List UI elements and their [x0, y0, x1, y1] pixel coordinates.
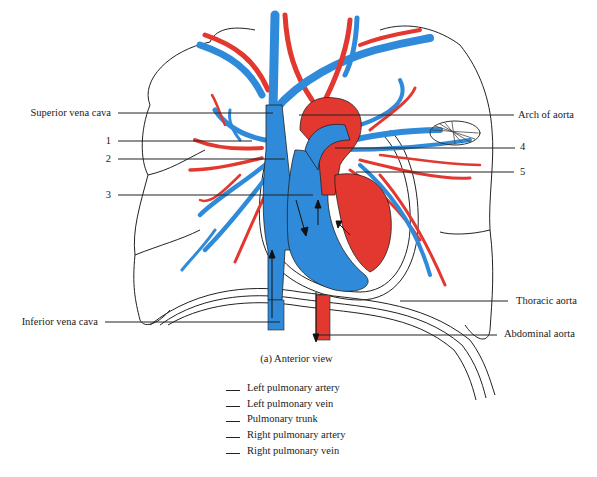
label-2: 2: [106, 153, 111, 165]
label-superior-vena-cava: Superior vena cava: [31, 107, 111, 119]
label-5: 5: [520, 166, 525, 178]
figure-caption: (a) Anterior view: [0, 353, 597, 364]
answer-blank[interactable]: [226, 390, 240, 391]
label-inferior-vena-cava: Inferior vena cava: [22, 316, 98, 328]
answer-blank[interactable]: [226, 437, 240, 438]
answer-key-list: Left pulmonary artery Left pulmonary vei…: [226, 380, 346, 458]
answer-key-text: Right pulmonary artery: [247, 429, 346, 440]
caption-text: (a) Anterior view: [260, 353, 332, 364]
answer-blank[interactable]: [226, 421, 240, 422]
answer-blank[interactable]: [226, 406, 240, 407]
label-3: 3: [106, 189, 111, 201]
answer-key-item: Left pulmonary artery: [226, 380, 346, 396]
answer-key-item: Right pulmonary vein: [226, 442, 346, 458]
label-arch-of-aorta: Arch of aorta: [518, 109, 574, 121]
circulation-diagram: Superior vena cava 1 2 3 Inferior vena c…: [0, 0, 597, 477]
label-1: 1: [106, 135, 111, 147]
label-4: 4: [520, 141, 525, 153]
answer-key-text: Left pulmonary artery: [247, 382, 340, 393]
answer-key-text: Right pulmonary vein: [247, 445, 339, 456]
answer-key-text: Left pulmonary vein: [247, 398, 333, 409]
answer-blank[interactable]: [226, 453, 240, 454]
answer-key-item: Left pulmonary vein: [226, 396, 346, 412]
answer-key-item: Right pulmonary artery: [226, 427, 346, 443]
label-thoracic-aorta: Thoracic aorta: [516, 295, 577, 307]
answer-key-item: Pulmonary trunk: [226, 411, 346, 427]
label-abdominal-aorta: Abdominal aorta: [504, 328, 575, 340]
answer-key-text: Pulmonary trunk: [247, 413, 318, 424]
